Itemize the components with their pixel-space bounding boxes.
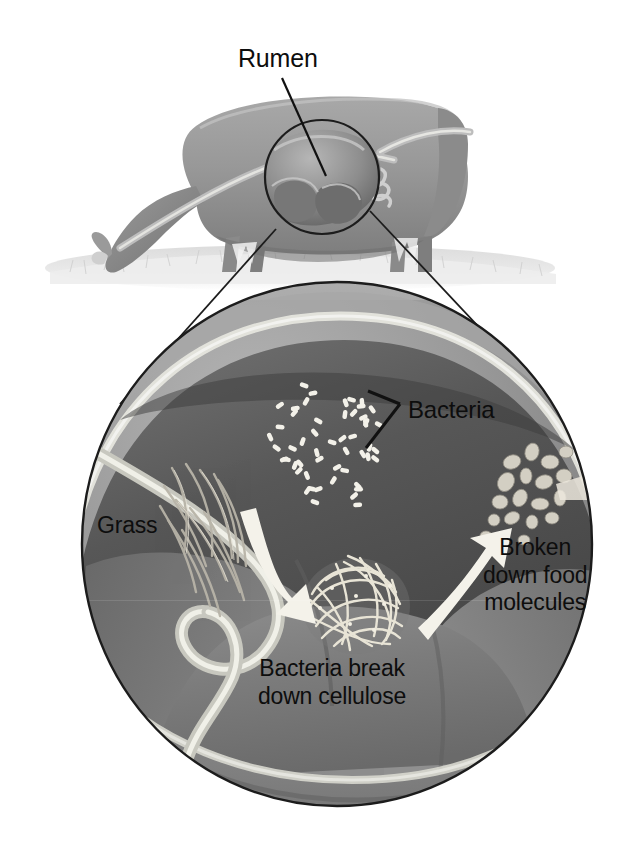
illustration-canvas [0, 0, 624, 843]
cow-illustration [92, 97, 470, 273]
rumen-digestion-figure: Rumen Bacteria Grass Broken down food mo… [0, 0, 624, 843]
label-bacteria: Bacteria [408, 396, 494, 423]
label-broken-down-food-molecules: Broken down food molecules [483, 534, 587, 617]
label-grass: Grass [97, 512, 157, 538]
label-rumen: Rumen [238, 44, 318, 73]
label-bacteria-break-down-cellulose: Bacteria break down cellulose [258, 655, 406, 710]
